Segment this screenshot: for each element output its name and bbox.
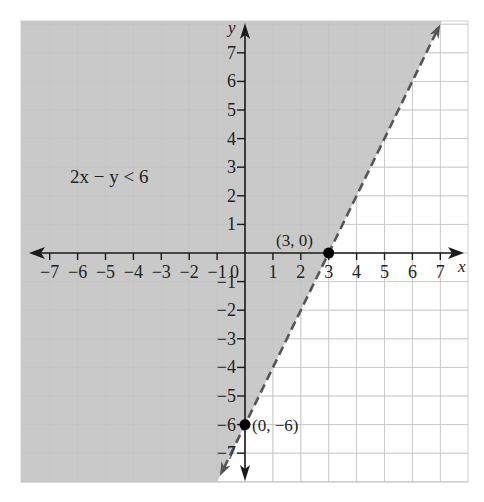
y-tick-label: −2 bbox=[217, 300, 236, 320]
x-tick-label: −5 bbox=[96, 262, 115, 282]
x-tick-label: −3 bbox=[152, 262, 171, 282]
point-0-neg6-label: (0, −6) bbox=[252, 416, 298, 435]
y-tick-label: 3 bbox=[227, 157, 236, 177]
x-tick-label: 2 bbox=[296, 262, 305, 282]
x-tick-label: −7 bbox=[40, 262, 59, 282]
y-tick-label: 2 bbox=[227, 186, 236, 206]
x-tick-label: −4 bbox=[124, 262, 143, 282]
y-tick-label: −3 bbox=[217, 329, 236, 349]
x-tick-label: 6 bbox=[408, 262, 417, 282]
inequality-label: 2x − y < 6 bbox=[70, 166, 148, 187]
point-3-0-label: (3, 0) bbox=[276, 231, 313, 250]
y-tick-label: −7 bbox=[217, 443, 236, 463]
y-tick-label: −5 bbox=[217, 386, 236, 406]
coordinate-plane: −7−6−5−4−3−2−11234567−7−6−5−4−3−2−112345… bbox=[0, 0, 484, 502]
point-3-0 bbox=[323, 248, 334, 259]
x-axis-label: x bbox=[457, 257, 466, 276]
x-tick-label: 4 bbox=[352, 262, 361, 282]
y-tick-label: 7 bbox=[227, 43, 236, 63]
y-tick-label: −6 bbox=[217, 415, 236, 435]
y-tick-label: 1 bbox=[227, 214, 236, 234]
x-tick-label: 5 bbox=[380, 262, 389, 282]
point-0-neg6 bbox=[240, 419, 251, 430]
y-tick-label: 6 bbox=[227, 71, 236, 91]
y-tick-label: 4 bbox=[227, 129, 236, 149]
x-tick-label: 3 bbox=[324, 262, 333, 282]
y-tick-label: −4 bbox=[217, 357, 236, 377]
x-tick-label: −2 bbox=[180, 262, 199, 282]
y-axis-label: y bbox=[226, 18, 236, 37]
x-tick-label: 7 bbox=[436, 262, 445, 282]
x-tick-label: −6 bbox=[68, 262, 87, 282]
origin-label: 0 bbox=[230, 262, 239, 282]
y-tick-label: 5 bbox=[227, 100, 236, 120]
x-tick-label: 1 bbox=[268, 262, 277, 282]
